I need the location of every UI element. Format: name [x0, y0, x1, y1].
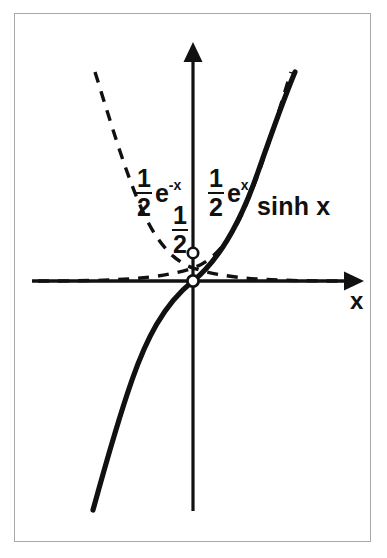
y-axis-arrow-icon	[184, 42, 203, 62]
exponential-base: e	[155, 181, 169, 206]
plot-canvas	[0, 0, 387, 558]
label-y-intercept-one-half: 1 2	[172, 203, 188, 257]
fraction-one-half: 1 2	[172, 203, 188, 257]
marker-origin	[187, 275, 198, 286]
exponential-exponent: x	[241, 178, 249, 192]
fraction-one-half: 1 2	[208, 166, 224, 220]
exponential-base: e	[227, 181, 241, 206]
label-x-axis: x	[350, 289, 363, 313]
fraction-denominator: 2	[208, 194, 224, 221]
fraction-denominator: 2	[172, 231, 188, 258]
fraction-denominator: 2	[136, 194, 152, 221]
fraction-numerator: 1	[172, 203, 188, 231]
figure-root: 1 2 e-x 1 2 ex 1 2 sinh x x	[0, 0, 387, 558]
label-sinh-x: sinh x	[257, 194, 330, 219]
fraction-numerator: 1	[208, 166, 224, 194]
exponential-term: ex	[224, 180, 249, 207]
label-half-e-positive-x: 1 2 ex	[208, 166, 249, 220]
fraction-numerator: 1	[136, 166, 152, 194]
fraction-one-half: 1 2	[136, 166, 152, 220]
marker-y-intercept-half	[188, 248, 198, 258]
exponential-exponent: -x	[169, 178, 181, 192]
